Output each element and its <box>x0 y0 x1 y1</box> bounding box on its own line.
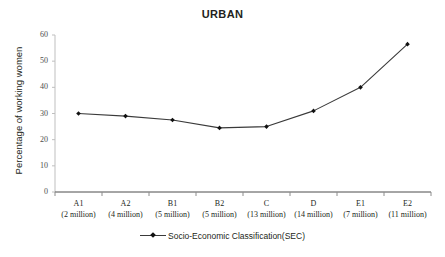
x-axis-category-population: (11 million) <box>384 209 431 220</box>
data-point-marker <box>123 114 128 119</box>
x-axis-category-label: A1(2 million) <box>55 198 102 220</box>
x-axis-category-label: E2(11 million) <box>384 198 431 220</box>
x-axis-category-label: E1(7 million) <box>337 198 384 220</box>
data-point-marker <box>311 109 316 114</box>
x-axis-category-population: (5 million) <box>149 209 196 220</box>
data-point-markers <box>76 42 410 130</box>
legend-item-label: Socio-Economic Classification(SEC) <box>168 231 305 241</box>
x-axis-category-label: C(13 million) <box>243 198 290 220</box>
x-axis-category-label: A2(4 million) <box>102 198 149 220</box>
x-axis-ticks <box>55 192 431 196</box>
x-axis-category-population: (13 million) <box>243 209 290 220</box>
data-point-marker <box>170 118 175 123</box>
x-axis-category-code: A1 <box>55 198 102 209</box>
x-axis-category-label: D(14 million) <box>290 198 337 220</box>
chart-container: URBAN Percentage of working women 010203… <box>0 0 445 257</box>
data-point-marker <box>76 111 81 116</box>
legend-line-marker-icon <box>140 231 166 240</box>
x-axis-category-code: D <box>290 198 337 209</box>
data-point-marker <box>217 126 222 131</box>
x-axis-category-label: B1(5 million) <box>149 198 196 220</box>
data-point-marker <box>264 124 269 129</box>
chart-legend: Socio-Economic Classification(SEC) <box>0 230 445 241</box>
x-axis-category-population: (2 million) <box>55 209 102 220</box>
x-axis-category-population: (14 million) <box>290 209 337 220</box>
x-axis-category-population: (7 million) <box>337 209 384 220</box>
x-axis-category-code: B1 <box>149 198 196 209</box>
x-axis-category-label: B2(5 million) <box>196 198 243 220</box>
x-axis-category-code: C <box>243 198 290 209</box>
x-axis-category-code: E1 <box>337 198 384 209</box>
data-series-line <box>79 44 408 128</box>
x-axis-category-code: A2 <box>102 198 149 209</box>
x-axis-category-code: E2 <box>384 198 431 209</box>
x-axis-category-code: B2 <box>196 198 243 209</box>
x-axis-category-population: (4 million) <box>102 209 149 220</box>
x-axis-category-population: (5 million) <box>196 209 243 220</box>
